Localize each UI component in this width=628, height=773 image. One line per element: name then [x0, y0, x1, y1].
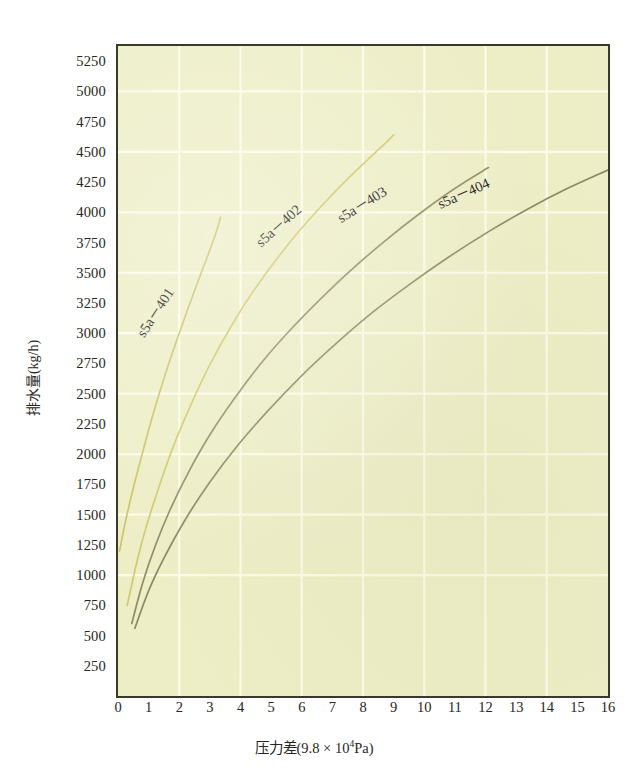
- x-tick-label: 15: [570, 699, 585, 716]
- x-axis-title: 压力差(9.8 × 104Pa): [0, 736, 628, 757]
- x-tick-label: 12: [478, 699, 493, 716]
- x-tick-label: 7: [329, 699, 336, 716]
- x-tick-label: 2: [176, 699, 183, 716]
- x-tick-label: 3: [206, 699, 213, 716]
- y-axis-title: 排水量(kg/h): [22, 298, 42, 458]
- x-axis-title-tail: Pa): [354, 740, 373, 756]
- x-tick-label: 13: [509, 699, 524, 716]
- x-axis-tick-labels: 012345678910111213141516: [0, 0, 628, 773]
- x-tick-label: 10: [417, 699, 432, 716]
- x-axis-title-main: 压力差(9.8 × 10: [255, 740, 350, 756]
- x-tick-label: 9: [390, 699, 397, 716]
- x-tick-label: 0: [114, 699, 121, 716]
- x-tick-label: 16: [601, 699, 616, 716]
- x-tick-label: 5: [268, 699, 275, 716]
- chart-figure: s5a－401s5a－402s5a－403s5a－404 25050075010…: [0, 0, 628, 773]
- x-tick-label: 8: [359, 699, 366, 716]
- x-tick-label: 4: [237, 699, 244, 716]
- x-tick-label: 1: [145, 699, 152, 716]
- x-tick-label: 14: [540, 699, 555, 716]
- x-tick-label: 11: [448, 699, 462, 716]
- x-tick-label: 6: [298, 699, 305, 716]
